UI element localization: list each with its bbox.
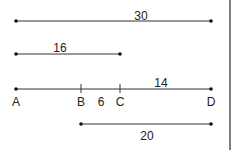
segment-16-label: 16 (53, 41, 67, 55)
segment-ad: 14 A B 6 C D (12, 76, 216, 109)
segment-cd-label: 14 (154, 76, 168, 90)
segment-16: 16 (14, 41, 122, 56)
segment-20: 20 (79, 122, 213, 143)
segment-bc-label: 6 (98, 95, 105, 109)
segment-diagram: 30 16 14 A B 6 C D 20 (0, 0, 232, 150)
segment-30: 30 (14, 9, 213, 23)
point-b-label: B (77, 95, 85, 109)
segment-30-label: 30 (134, 9, 148, 23)
segment-20-label: 20 (140, 129, 154, 143)
point-c-label: C (116, 95, 125, 109)
point-d-label: D (207, 95, 216, 109)
point-a-label: A (12, 95, 20, 109)
